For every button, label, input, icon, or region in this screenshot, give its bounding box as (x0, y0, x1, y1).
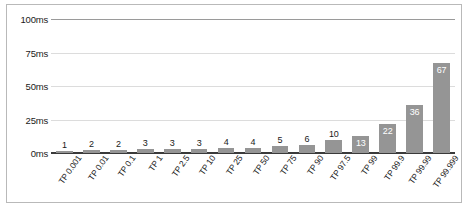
x-axis-tick-label: TP 97.5 (329, 154, 353, 183)
bar-value-label: 22 (379, 126, 396, 136)
bar-slot[interactable]: 36 (406, 19, 423, 153)
x-axis-tick-label: TP 99.99 (407, 154, 434, 187)
bar-value-label: 13 (352, 138, 369, 148)
x-axis-tick-label: TP 0.001 (57, 154, 84, 187)
bar-value-label: 3 (191, 138, 208, 148)
y-axis-tick-label: 100ms (20, 14, 48, 25)
x-axis: TP 0.001TP 0.01TP 0.1TP 1TP 2.5TP 10TP 2… (51, 154, 455, 204)
bar-slot[interactable]: 4 (245, 19, 262, 153)
x-axis-tick-label: TP 50 (252, 154, 273, 177)
y-axis-tick-label: 25ms (26, 114, 48, 125)
bar-slot[interactable]: 67 (433, 19, 450, 153)
bar-slot[interactable]: 4 (218, 19, 235, 153)
bar[interactable] (299, 145, 316, 153)
x-axis-tick-label: TP 1 (147, 154, 165, 174)
x-axis-tick-label: TP 10 (198, 154, 219, 177)
bar-value-label: 3 (137, 138, 154, 148)
bar-slot[interactable]: 3 (137, 19, 154, 153)
bar-value-label: 5 (272, 135, 289, 145)
bar-value-label: 67 (433, 65, 450, 75)
y-axis-tick-label: 75ms (26, 47, 48, 58)
x-axis-tick-label: TP 90 (306, 154, 327, 177)
bar-value-label: 36 (406, 107, 423, 117)
bar-value-label: 3 (164, 138, 181, 148)
bar[interactable] (325, 140, 342, 153)
x-axis-tick-label: TP 99 (360, 154, 381, 177)
bar-value-label: 1 (56, 140, 73, 150)
bar-slot[interactable]: 3 (164, 19, 181, 153)
x-axis-tick-label: TP 0.01 (87, 154, 111, 183)
bar-slot[interactable]: 10 (325, 19, 342, 153)
bar-value-label: 10 (325, 129, 342, 139)
bar[interactable] (83, 150, 100, 153)
bar-slot[interactable]: 1 (56, 19, 73, 153)
x-axis-tick-label: TP 0.1 (116, 154, 138, 179)
bar-slot[interactable]: 3 (191, 19, 208, 153)
x-axis-tick-label: TP 99.999 (431, 154, 461, 190)
bar[interactable] (191, 149, 208, 153)
bar[interactable] (164, 149, 181, 153)
bar[interactable] (245, 148, 262, 153)
bar-slot[interactable]: 2 (110, 19, 127, 153)
bar-value-label: 2 (110, 139, 127, 149)
bar[interactable] (110, 150, 127, 153)
bar-slot[interactable]: 22 (379, 19, 396, 153)
bar-value-label: 2 (83, 139, 100, 149)
bar-value-label: 6 (299, 134, 316, 144)
bar[interactable] (272, 146, 289, 153)
x-axis-tick-label: TP 99.9 (383, 154, 407, 183)
bar-slot[interactable]: 13 (352, 19, 369, 153)
bar[interactable] (56, 151, 73, 153)
bar-value-label: 4 (245, 137, 262, 147)
x-axis-tick-label: TP 75 (279, 154, 300, 177)
x-axis-tick-label: TP 2.5 (170, 154, 192, 179)
bar[interactable] (137, 149, 154, 153)
bar[interactable] (433, 63, 450, 153)
bar-series: 12233344561013223667 (51, 19, 455, 153)
y-axis-tick-label: 0ms (31, 148, 48, 159)
bar-slot[interactable]: 2 (83, 19, 100, 153)
bar-slot[interactable]: 5 (272, 19, 289, 153)
chart-frame: 0ms25ms50ms75ms100ms 1223334456101322366… (6, 4, 462, 203)
y-axis: 0ms25ms50ms75ms100ms (7, 5, 48, 165)
bar-slot[interactable]: 6 (299, 19, 316, 153)
x-axis-tick-label: TP 25 (225, 154, 246, 177)
bar-value-label: 4 (218, 137, 235, 147)
bar[interactable] (218, 148, 235, 153)
y-axis-tick-label: 50ms (26, 81, 48, 92)
